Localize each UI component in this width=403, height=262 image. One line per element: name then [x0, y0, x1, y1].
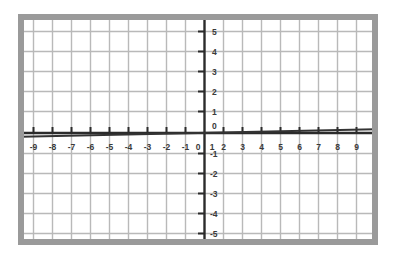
x-tick-label: 7: [316, 142, 321, 152]
x-tick-label: -3: [144, 142, 152, 152]
y-tick-label: -3: [210, 189, 218, 199]
y-tick-label: 2: [212, 87, 217, 97]
x-tick-label: 9: [354, 142, 359, 152]
x-tick-label: -6: [87, 142, 95, 152]
y-tick-label: -5: [210, 229, 218, 239]
x-tick-label: -9: [30, 142, 38, 152]
y-tick-label: 4: [212, 47, 217, 57]
x-tick-label: -8: [49, 142, 57, 152]
x-tick-label: 5: [278, 142, 283, 152]
coordinate-plane-plot: -9 -8 -7 -6 -5 -4 -3 -2 -1 0 1 2 3 4 5 6…: [0, 0, 403, 262]
x-tick-label: -7: [68, 142, 76, 152]
x-tick-label: -1: [182, 142, 190, 152]
x-tick-label-zero: 0: [196, 142, 201, 152]
y-tick-label: -1: [210, 149, 218, 159]
graph-canvas: -9 -8 -7 -6 -5 -4 -3 -2 -1 0 1 2 3 4 5 6…: [0, 0, 403, 262]
x-tick-label: 8: [335, 142, 340, 152]
x-tick-label: -2: [163, 142, 171, 152]
y-tick-label: -2: [210, 169, 218, 179]
y-tick-label-zero: 0: [212, 121, 217, 131]
y-tick-label: 5: [212, 27, 217, 37]
y-tick-label: 1: [212, 107, 217, 117]
x-tick-label: -5: [106, 142, 114, 152]
x-tick-label: 6: [297, 142, 302, 152]
x-tick-label: -4: [125, 142, 133, 152]
y-tick-label: 3: [212, 67, 217, 77]
x-tick-label: 2: [221, 142, 226, 152]
y-tick-label: -4: [210, 209, 218, 219]
x-tick-label: 3: [240, 142, 245, 152]
x-tick-label: 4: [259, 142, 264, 152]
